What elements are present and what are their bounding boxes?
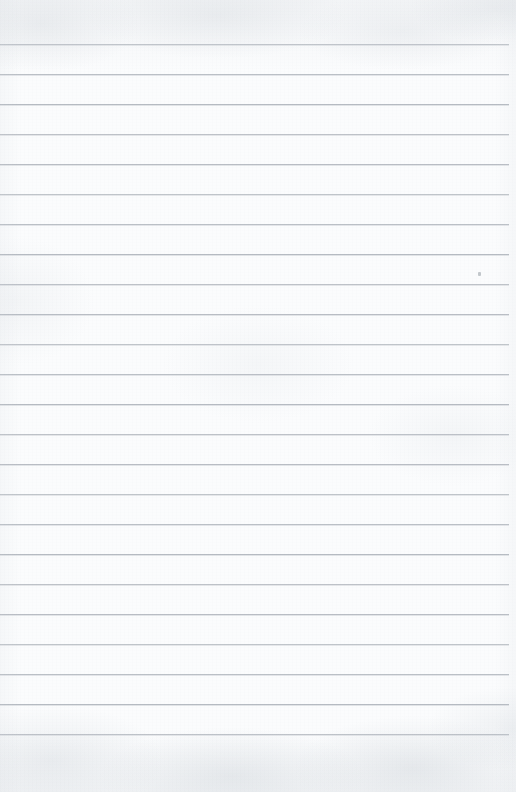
lined-paper-page	[0, 0, 516, 792]
ruled-line	[0, 644, 509, 645]
ruled-line	[0, 614, 509, 615]
ruled-line	[0, 104, 509, 105]
paper-speck	[478, 272, 481, 276]
ruled-line	[0, 164, 509, 165]
ruled-line	[0, 734, 509, 735]
ruled-line	[0, 434, 509, 435]
ruled-line	[0, 194, 509, 195]
ruled-line	[0, 134, 509, 135]
ruled-line	[0, 584, 509, 585]
ruled-line	[0, 224, 509, 225]
ruled-line	[0, 254, 509, 255]
ruled-line	[0, 344, 509, 345]
ruled-line	[0, 374, 509, 375]
writing-area[interactable]	[0, 44, 509, 733]
ruled-line	[0, 464, 509, 465]
ruled-line	[0, 284, 509, 285]
ruled-line	[0, 314, 509, 315]
ruled-line	[0, 674, 509, 675]
ruled-line	[0, 554, 509, 555]
ruled-line	[0, 74, 509, 75]
ruled-line	[0, 44, 509, 45]
ruled-line	[0, 524, 509, 525]
ruled-line	[0, 704, 509, 705]
ruled-line	[0, 404, 509, 405]
ruled-line	[0, 494, 509, 495]
